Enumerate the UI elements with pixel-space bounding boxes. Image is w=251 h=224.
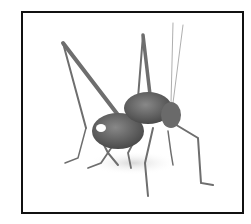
grasshopper-image (23, 13, 242, 212)
photo-frame (21, 11, 244, 214)
